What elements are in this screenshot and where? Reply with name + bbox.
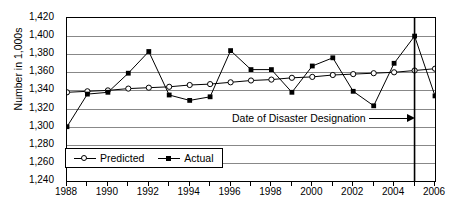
x-tick-label: 1996 [212,186,248,197]
y-tick-label: 1,380 [20,48,54,58]
x-tick-label: 1990 [89,186,125,197]
y-tick-label: 1,260 [20,157,54,167]
disaster-annotation-text: Date of Disaster Designation [232,112,366,124]
annotation-arrow-icon [369,113,417,123]
y-axis-tick-labels: 1,4201,4001,3801,3601,3401,3201,3001,280… [18,0,54,208]
x-tick-mark [189,182,190,186]
x-tick-mark [168,182,169,186]
x-tick-label: 2004 [375,186,411,197]
x-tick-mark [86,182,87,186]
x-tick-mark [230,182,231,186]
x-tick-mark [434,182,435,186]
x-tick-mark [148,182,149,186]
x-tick-mark [393,182,394,186]
x-tick-mark [107,182,108,186]
y-tick-label: 1,420 [20,12,54,22]
y-tick-label: 1,280 [20,139,54,149]
x-tick-mark [414,182,415,186]
x-tick-label: 1988 [48,186,84,197]
x-tick-label: 1998 [252,186,288,197]
y-tick-label: 1,400 [20,30,54,40]
x-tick-mark [250,182,251,186]
y-tick-label: 1,340 [20,84,54,94]
y-tick-label: 1,240 [20,175,54,185]
legend-marker-filled-square [158,153,180,163]
chart-legend: PredictedActual [65,148,223,168]
x-tick-mark [352,182,353,186]
x-tick-label: 2006 [416,186,451,197]
y-tick-label: 1,360 [20,66,54,76]
legend-marker-open-circle [74,153,96,163]
x-tick-mark [209,182,210,186]
y-tick-label: 1,320 [20,103,54,113]
x-tick-mark [270,182,271,186]
x-tick-mark [373,182,374,186]
x-tick-mark [66,182,67,186]
x-tick-label: 1994 [171,186,207,197]
disaster-annotation: Date of Disaster Designation [232,111,417,125]
x-tick-mark [332,182,333,186]
x-tick-mark [127,182,128,186]
x-tick-mark [311,182,312,186]
x-tick-label: 2002 [334,186,370,197]
x-tick-label: 1992 [130,186,166,197]
x-axis-tick-labels: 1988199019921994199619982000200220042006 [0,186,451,200]
legend-label: Actual [184,153,213,164]
x-axis-tick-marks [66,182,436,187]
x-tick-label: 2000 [293,186,329,197]
y-tick-label: 1,300 [20,121,54,131]
chart-figure: Number in 1,000s 1,4201,4001,3801,3601,3… [0,0,451,208]
x-tick-mark [291,182,292,186]
legend-item-actual: Actual [158,153,213,164]
legend-label: Predicted [100,153,144,164]
legend-item-predicted: Predicted [74,153,144,164]
